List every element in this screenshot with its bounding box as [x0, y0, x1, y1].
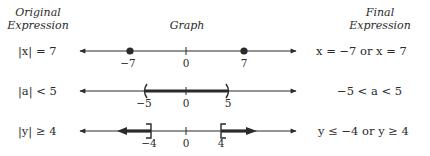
- number-line-2: [80, 84, 296, 98]
- tick-label-2-right: 5: [225, 97, 232, 109]
- number-line-1: [80, 47, 296, 55]
- point-pos7: [240, 47, 247, 54]
- tick-label-1-zero: 0: [183, 57, 190, 69]
- tick-label-1-right: 7: [241, 57, 248, 69]
- tick-label-3-zero: 0: [183, 137, 190, 149]
- tick-label-2-zero: 0: [183, 97, 190, 109]
- tick-label-1-left: −7: [120, 57, 135, 69]
- number-line-graphs: [0, 0, 430, 156]
- tick-label-2-left: −5: [136, 97, 151, 109]
- tick-label-3-right: 4: [218, 137, 225, 149]
- tick-label-3-left: −4: [141, 137, 156, 149]
- number-line-3: [80, 124, 296, 138]
- point-neg7: [126, 47, 133, 54]
